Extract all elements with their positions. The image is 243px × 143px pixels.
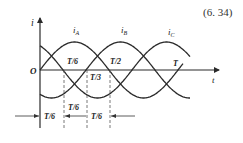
label-i-a: iA	[73, 25, 80, 36]
y-axis-label: i	[31, 17, 34, 28]
label-i-c: iC	[168, 27, 176, 38]
annotation-t3: T/3	[90, 73, 101, 82]
origin-label: O	[30, 66, 37, 76]
dimension-label-1: T/6	[44, 112, 55, 121]
label-i-b: iB	[121, 25, 128, 36]
dimension-label-2: T/6	[68, 103, 79, 112]
annotation-t2: T/2	[110, 57, 121, 66]
three-phase-current-diagram: (6. 34) i t O iA iB iC T/6 T/3 T/2 T T/6…	[0, 0, 243, 143]
equation-number: (6. 34)	[203, 6, 233, 19]
annotation-t6: T/6	[67, 57, 78, 66]
annotation-T: T	[173, 59, 179, 68]
x-axis-label: t	[212, 75, 215, 85]
dimension-label-3: T/6	[91, 112, 102, 121]
